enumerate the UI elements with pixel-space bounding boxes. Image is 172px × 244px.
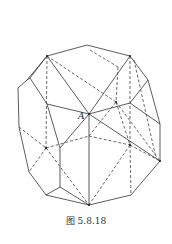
hidden-edge xyxy=(90,50,118,67)
vertex-dot xyxy=(45,147,47,149)
vertex-dot xyxy=(129,144,131,146)
visible-edge xyxy=(148,80,160,124)
hidden-edge xyxy=(116,102,130,145)
hidden-edges xyxy=(19,50,160,205)
polyhedron-diagram: A xyxy=(0,0,172,244)
visible-edge xyxy=(29,172,46,195)
figure-caption: 图 5.8.18 xyxy=(0,214,172,227)
visible-edge xyxy=(46,187,60,195)
visible-edge xyxy=(130,56,148,80)
visible-edge xyxy=(47,45,87,56)
hidden-edge xyxy=(46,56,47,148)
visible-edge xyxy=(18,80,27,88)
hidden-edge xyxy=(116,67,118,102)
hidden-edge xyxy=(89,145,130,205)
hidden-edge xyxy=(89,102,116,136)
vertex-dot xyxy=(88,113,90,115)
hidden-edge xyxy=(116,102,160,161)
visible-edge xyxy=(60,114,89,148)
visible-edge xyxy=(27,56,47,80)
hidden-edge xyxy=(47,56,116,102)
visible-edge xyxy=(60,187,89,205)
visible-edge xyxy=(130,80,148,103)
visible-edge xyxy=(89,195,131,205)
visible-edge xyxy=(87,45,130,56)
vertex-dot xyxy=(159,160,161,162)
hidden-edge xyxy=(130,145,131,195)
visible-edge xyxy=(89,56,130,114)
visible-edge xyxy=(18,88,19,127)
visible-edge xyxy=(89,114,160,161)
vertex-dot xyxy=(115,101,117,103)
visible-edge xyxy=(131,161,160,195)
hidden-edge xyxy=(130,145,160,161)
visible-edge xyxy=(47,104,60,148)
vertex-dot xyxy=(88,204,90,206)
hidden-edge xyxy=(134,60,156,158)
visible-edge xyxy=(30,78,47,104)
hidden-edge xyxy=(29,148,46,172)
vertex-label-a: A xyxy=(77,111,85,121)
visible-edges xyxy=(18,45,160,205)
hidden-edge xyxy=(46,136,89,148)
vertex-dot xyxy=(129,55,131,57)
vertex-dot xyxy=(46,55,48,57)
